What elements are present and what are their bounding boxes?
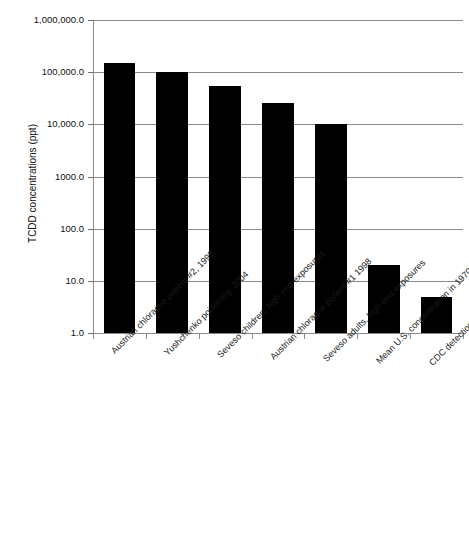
y-axis-tick bbox=[88, 177, 93, 178]
tcdd-concentration-bar-chart: TCDD concentrations (ppt) 1,000,000.0100… bbox=[0, 0, 469, 551]
bar bbox=[104, 63, 136, 333]
y-axis-tick-label: 100,000.0 bbox=[0, 67, 84, 77]
chart-title bbox=[0, 0, 469, 2]
y-axis-tick-label: 100.0 bbox=[0, 224, 84, 234]
x-axis-tick bbox=[252, 333, 253, 339]
y-axis-tick bbox=[88, 124, 93, 125]
y-axis-tick-label: 10,000.0 bbox=[0, 119, 84, 129]
x-axis-tick bbox=[93, 333, 94, 339]
x-axis-tick bbox=[304, 333, 305, 339]
y-axis-tick bbox=[88, 72, 93, 73]
y-axis-tick-label: 1,000,000.0 bbox=[0, 15, 84, 25]
x-axis-tick bbox=[199, 333, 200, 339]
x-axis-tick bbox=[146, 333, 147, 339]
x-axis-category-labels: Austrian chloracne patient #2, 1998Yushc… bbox=[0, 340, 469, 551]
gridline bbox=[93, 20, 463, 21]
y-axis-tick-label: 10.0 bbox=[0, 276, 84, 286]
y-axis-tick-label: 1000.0 bbox=[0, 172, 84, 182]
plot-area: 1,000,000.0100,000.010,000.01000.0100.01… bbox=[93, 20, 463, 333]
y-axis-tick-label: 1.0 bbox=[0, 328, 84, 338]
y-axis-tick bbox=[88, 20, 93, 21]
y-axis-tick bbox=[88, 281, 93, 282]
gridline bbox=[93, 72, 463, 73]
y-axis-tick bbox=[88, 229, 93, 230]
